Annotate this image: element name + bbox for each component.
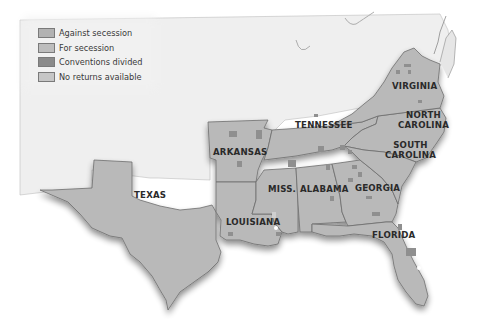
label-south-carolina-line2: CAROLINA bbox=[385, 150, 436, 160]
legend-item-divided: Conventions divided bbox=[38, 55, 150, 70]
legend-label-for: For secession bbox=[59, 43, 114, 53]
label-south-carolina: SOUTH CAROLINA bbox=[385, 140, 436, 160]
legend-swatch-against bbox=[38, 28, 55, 38]
label-virginia: VIRGINIA bbox=[392, 81, 437, 91]
label-arkansas: ARKANSAS bbox=[213, 147, 267, 157]
legend-swatch-divided bbox=[38, 57, 55, 67]
label-north-carolina-line2: CAROLINA bbox=[398, 120, 449, 130]
label-north-carolina-line1: NORTH bbox=[398, 110, 449, 120]
label-tennessee: TENNESSEE bbox=[295, 120, 353, 130]
label-texas: TEXAS bbox=[134, 190, 166, 200]
legend-item-noreturns: No returns available bbox=[38, 70, 150, 85]
label-mississippi: MISS. bbox=[268, 184, 296, 194]
secession-map: TEXAS ARKANSAS LOUISIANA MISS. ALABAMA G… bbox=[0, 0, 496, 324]
legend-item-against: Against secession bbox=[38, 26, 150, 41]
label-georgia: GEORGIA bbox=[355, 183, 400, 193]
map-legend: Against secession For secession Conventi… bbox=[30, 24, 150, 84]
label-alabama: ALABAMA bbox=[300, 184, 349, 194]
legend-label-noreturns: No returns available bbox=[59, 72, 142, 82]
legend-item-for: For secession bbox=[38, 41, 150, 56]
label-louisiana: LOUISIANA bbox=[226, 217, 280, 227]
legend-label-against: Against secession bbox=[59, 28, 132, 38]
legend-swatch-for bbox=[38, 43, 55, 53]
label-south-carolina-line1: SOUTH bbox=[385, 140, 436, 150]
label-florida: FLORIDA bbox=[372, 230, 415, 240]
legend-swatch-noreturns bbox=[38, 72, 55, 82]
legend-label-divided: Conventions divided bbox=[59, 57, 143, 67]
label-north-carolina: NORTH CAROLINA bbox=[398, 110, 449, 130]
